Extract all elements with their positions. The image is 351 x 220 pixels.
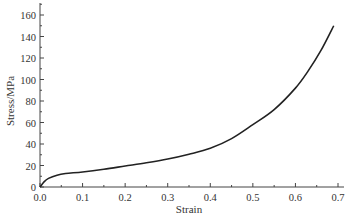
y-tick-label: 160 — [20, 10, 36, 21]
x-tick-label: 0.0 — [33, 192, 46, 203]
x-tick-labels: 0.00.10.20.30.40.50.60.7 — [33, 192, 344, 203]
y-tick-label: 20 — [26, 161, 37, 172]
stress-strain-chart: 020406080100120140160 0.00.10.20.30.40.5… — [0, 0, 351, 220]
axes — [40, 3, 344, 187]
x-tick-label: 0.4 — [204, 192, 218, 203]
y-tick-label: 60 — [26, 118, 37, 129]
x-tick-label: 0.7 — [331, 192, 344, 203]
y-tick-label: 120 — [20, 53, 36, 64]
stress-strain-curve — [40, 26, 334, 187]
y-tick-label: 140 — [20, 32, 36, 43]
y-tick-label: 80 — [26, 96, 37, 107]
x-tick-label: 0.1 — [76, 192, 89, 203]
x-axis-label: Strain — [176, 203, 203, 215]
y-axis-label: Stress/MPa — [4, 76, 16, 126]
x-tick-label: 0.2 — [119, 192, 132, 203]
x-tick-label: 0.6 — [289, 192, 302, 203]
x-tick-label: 0.5 — [246, 192, 259, 203]
x-tick-label: 0.3 — [161, 192, 174, 203]
y-tick-labels: 020406080100120140160 — [20, 10, 36, 193]
y-tick-label: 100 — [20, 75, 36, 86]
y-tick-label: 40 — [26, 139, 37, 150]
